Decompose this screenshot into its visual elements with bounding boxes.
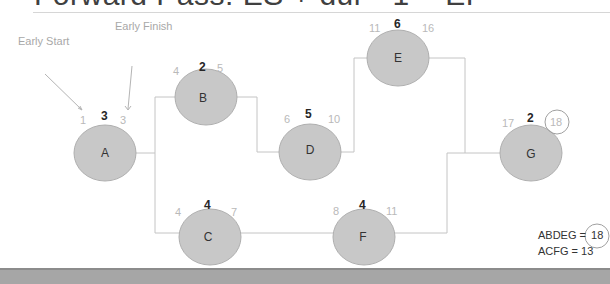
node-e-es: 11 <box>369 22 380 34</box>
node-b-label: B <box>199 92 207 104</box>
node-c-label: C <box>204 231 213 243</box>
connector-d-e <box>341 58 367 152</box>
node-e-ef: 16 <box>422 22 434 34</box>
path-acfg: ACFG = 13 <box>538 243 603 259</box>
node-g-label: G <box>526 148 535 160</box>
node-d-label: D <box>306 144 315 156</box>
node-a-duration: 3 <box>101 110 108 122</box>
slide-footer-band <box>0 268 610 284</box>
node-e-label: E <box>394 52 402 64</box>
path-abdeg-label: ABDEG = <box>538 229 586 241</box>
node-f-duration: 4 <box>359 199 366 211</box>
early-start-annotation: Early Start <box>18 35 69 47</box>
node-b-duration: 2 <box>199 61 206 73</box>
early-finish-annotation: Early Finish <box>115 20 172 32</box>
connector-split-b <box>155 97 175 233</box>
node-f-ef: 11 <box>386 205 397 217</box>
connector-f-g <box>395 153 447 233</box>
node-f-label: F <box>359 231 366 243</box>
node-d-duration: 5 <box>305 108 312 120</box>
path-summary: ABDEG = 18 ACFG = 13 <box>538 227 603 259</box>
node-c-ef: 7 <box>231 206 237 218</box>
node-c-duration: 4 <box>204 199 211 211</box>
early-finish-arrow <box>128 66 132 109</box>
node-d-es: 6 <box>284 113 290 125</box>
node-f-es: 8 <box>333 205 339 217</box>
node-e-duration: 6 <box>394 18 401 30</box>
node-g-es: 17 <box>502 117 514 129</box>
node-a-ef: 3 <box>120 114 126 126</box>
path-abdeg: ABDEG = 18 <box>538 227 603 243</box>
path-abdeg-total: 18 <box>591 229 603 241</box>
node-d-ef: 10 <box>328 113 340 125</box>
node-a-es: 1 <box>80 114 86 126</box>
connector-e-g <box>429 58 465 153</box>
node-a-label: A <box>101 147 109 159</box>
early-start-arrow <box>45 74 82 110</box>
connector-b-d <box>237 97 279 152</box>
node-g-duration: 2 <box>527 112 534 124</box>
node-b-es: 4 <box>173 65 179 77</box>
node-g-ef: 18 <box>550 116 562 128</box>
node-c-es: 4 <box>175 206 181 218</box>
node-b-ef: 5 <box>217 62 223 74</box>
